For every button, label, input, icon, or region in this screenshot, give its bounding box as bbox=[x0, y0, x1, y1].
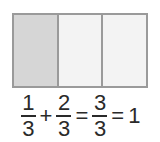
fraction-equation: 1 3 + 2 3 = 3 3 = 1 bbox=[0, 92, 160, 140]
whole-number-one: 1 bbox=[127, 105, 140, 127]
bar-cell-3 bbox=[101, 15, 146, 86]
fraction-bar-model bbox=[12, 13, 148, 88]
equals-operator-first: = bbox=[72, 105, 91, 127]
fraction-figure: 1 3 + 2 3 = 3 3 = 1 bbox=[0, 0, 160, 142]
fraction-three-thirds-denominator: 3 bbox=[94, 118, 106, 140]
fraction-two-thirds: 2 3 bbox=[56, 92, 71, 141]
plus-operator: + bbox=[37, 105, 56, 127]
fraction-one-third: 1 3 bbox=[21, 92, 36, 141]
fraction-two-thirds-numerator: 2 bbox=[58, 92, 70, 114]
fraction-one-third-numerator: 1 bbox=[22, 92, 34, 114]
fraction-two-thirds-denominator: 3 bbox=[58, 118, 70, 140]
fraction-three-thirds: 3 3 bbox=[92, 92, 107, 141]
bar-cell-2 bbox=[57, 15, 102, 86]
fraction-three-thirds-numerator: 3 bbox=[94, 92, 106, 114]
fraction-one-third-denominator: 3 bbox=[22, 118, 34, 140]
bar-cell-1 bbox=[14, 15, 57, 86]
equals-operator-second: = bbox=[108, 105, 127, 127]
